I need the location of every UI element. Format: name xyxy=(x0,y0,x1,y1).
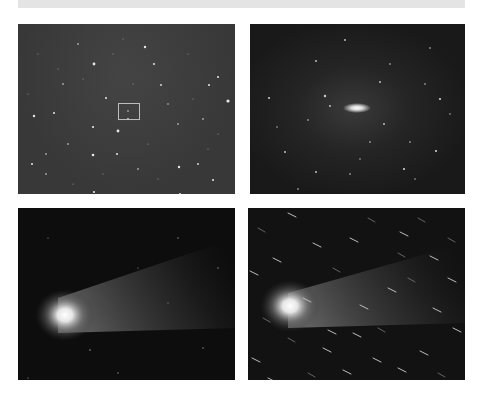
comet-streaks-graphic xyxy=(248,208,465,380)
panel-star-field-zoom xyxy=(250,24,465,194)
comet-nucleus-graphic xyxy=(250,24,465,194)
panel-star-field-wide xyxy=(18,24,235,194)
panel-comet-tail xyxy=(18,208,235,380)
comet-tail-graphic xyxy=(18,208,235,380)
top-bar xyxy=(18,0,465,8)
comet-location-marker xyxy=(118,103,140,120)
panel-comet-streaked-stars xyxy=(248,208,465,380)
